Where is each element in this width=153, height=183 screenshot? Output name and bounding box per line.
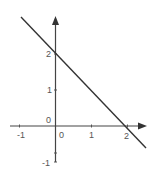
y-tick-label-0: 0 <box>46 115 51 125</box>
y-tick-label-2: 2 <box>46 49 51 59</box>
x-tick-label-2: 2 <box>124 131 129 141</box>
y-tick-label-neg1: -1 <box>42 158 50 168</box>
y-tick-label-1: 1 <box>47 85 52 95</box>
coordinate-plot: -1 0 1 2 2 1 0 -1 <box>0 0 153 183</box>
x-axis-arrow-icon <box>138 123 147 130</box>
x-tick-label-neg1: -1 <box>17 130 25 140</box>
y-axis-arrow-icon <box>52 16 59 25</box>
ticks <box>20 54 128 162</box>
x-tick-label-1: 1 <box>89 130 94 140</box>
function-line <box>21 17 146 148</box>
x-tick-label-0: 0 <box>59 130 64 140</box>
